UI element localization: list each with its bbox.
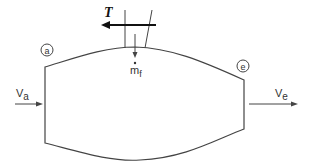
station-a-marker: a — [41, 44, 53, 56]
exit-velocity-label: Ve — [275, 87, 288, 102]
fuel-flow-arrow — [133, 34, 138, 58]
exit-velocity-arrow — [249, 102, 298, 107]
arrowhead-icon — [133, 52, 138, 58]
inlet-velocity-arrow — [15, 102, 43, 107]
inlet-velocity-label: Va — [16, 87, 29, 102]
station-a-label: a — [44, 46, 49, 56]
arrowhead-icon — [36, 102, 43, 107]
control-volume-diagram: a e Va Ve T mf — [0, 0, 316, 166]
arrowhead-icon — [291, 102, 298, 107]
thrust-arrow — [101, 21, 156, 29]
station-e-marker: e — [237, 60, 249, 72]
station-e-label: e — [240, 62, 245, 72]
control-volume-boundary — [45, 47, 244, 160]
pylon-rear-line — [145, 10, 152, 48]
thrust-label: T — [104, 5, 114, 20]
arrowhead-icon — [101, 21, 110, 29]
fuel-flow-label: mf — [130, 64, 142, 79]
